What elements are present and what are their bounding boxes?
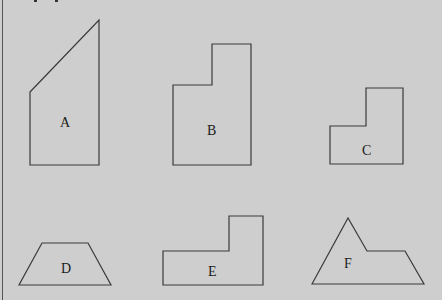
shape-e: E	[163, 216, 263, 285]
shapes-figure: A B C D E F	[0, 0, 442, 300]
shape-f: F	[312, 218, 424, 284]
shape-label-e: E	[208, 264, 217, 279]
shape-label-b: B	[207, 123, 216, 138]
shape-a: A	[30, 20, 99, 165]
shape-b: B	[173, 44, 251, 165]
shape-label-f: F	[344, 256, 352, 271]
shape-d: D	[19, 243, 111, 285]
shape-label-c: C	[362, 143, 371, 158]
shape-label-d: D	[61, 261, 71, 276]
shape-c: C	[330, 88, 403, 164]
shape-label-a: A	[60, 115, 71, 130]
shapes-svg: A B C D E F	[0, 0, 442, 300]
